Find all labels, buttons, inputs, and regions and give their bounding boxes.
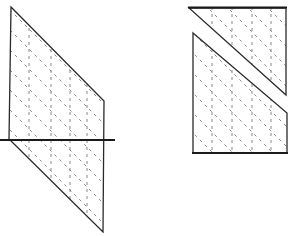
parallelogram-outline bbox=[9, 7, 104, 232]
right-rectangle-pieces bbox=[180, 0, 289, 236]
left-hatching bbox=[0, 0, 120, 236]
dissection-diagram bbox=[0, 0, 289, 236]
left-parallelogram bbox=[0, 0, 120, 236]
bottom-piece-outline bbox=[193, 33, 287, 153]
